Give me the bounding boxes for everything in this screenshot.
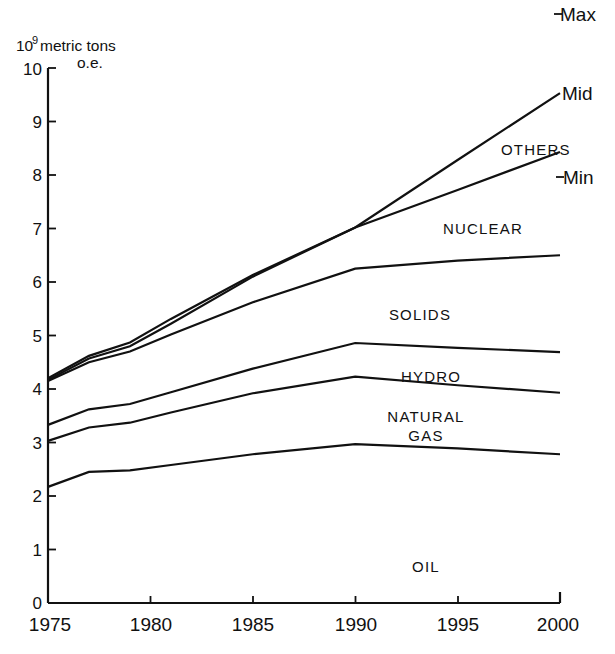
edge-label-mid: Mid — [562, 83, 593, 104]
y-tick-label-9: 9 — [33, 113, 42, 132]
y-tick-label-4: 4 — [33, 380, 42, 399]
x-tick-label-2000: 2000 — [537, 614, 579, 635]
edge-label-min: Min — [563, 167, 594, 188]
band-label-natural: NATURAL — [387, 408, 464, 425]
band-label-gas: GAS — [408, 427, 443, 444]
y-axis-title-text: metric tons — [40, 37, 116, 54]
y-tick-label-8: 8 — [33, 166, 42, 185]
band-label-nuclear: NUCLEAR — [443, 220, 523, 237]
x-tick-labels-group: 1975 1980 1985 1990 1995 2000 — [29, 614, 579, 635]
x-tick-label-1975: 1975 — [29, 614, 71, 635]
y-tick-label-5: 5 — [33, 327, 42, 346]
band-label-hydro: HYDRO — [401, 368, 461, 385]
x-tick-label-1995: 1995 — [437, 614, 479, 635]
band-label-others: OTHERS — [501, 141, 571, 158]
y-tick-label-0: 0 — [33, 594, 42, 613]
band-label-oil: OIL — [412, 558, 440, 575]
y-tick-label-3: 3 — [33, 434, 42, 453]
series-group — [48, 93, 560, 487]
series-line-natural-gas — [48, 377, 560, 441]
y-ticks-group — [48, 68, 56, 550]
y-tick-label-1: 1 — [33, 541, 42, 560]
y-tick-label-10: 10 — [23, 60, 42, 79]
x-tick-label-1985: 1985 — [232, 614, 274, 635]
series-line-solids — [48, 255, 560, 381]
y-axis-title-text2: o.e. — [77, 54, 103, 71]
series-line-oil — [48, 444, 560, 487]
y-axis-title-exponent: 9 — [32, 34, 38, 46]
energy-forecast-chart: 10 9 8 7 6 5 4 3 2 1 0 1975 1980 1985 19… — [0, 0, 615, 654]
chart-canvas: 10 9 8 7 6 5 4 3 2 1 0 1975 1980 1985 19… — [0, 0, 615, 654]
band-label-solids: SOLIDS — [389, 306, 451, 323]
series-line-others-min — [48, 152, 560, 380]
axes-group — [48, 68, 560, 603]
y-tick-label-6: 6 — [33, 273, 42, 292]
y-axis-title-mantissa: 10 — [16, 37, 34, 54]
edge-labels-group: Max Mid Min — [554, 4, 596, 188]
y-tick-labels-group: 10 9 8 7 6 5 4 3 2 1 0 — [23, 60, 42, 613]
y-tick-label-2: 2 — [33, 487, 42, 506]
y-tick-label-7: 7 — [33, 220, 42, 239]
x-tick-label-1980: 1980 — [130, 614, 172, 635]
x-tick-label-1990: 1990 — [335, 614, 377, 635]
edge-label-max: Max — [560, 4, 596, 25]
